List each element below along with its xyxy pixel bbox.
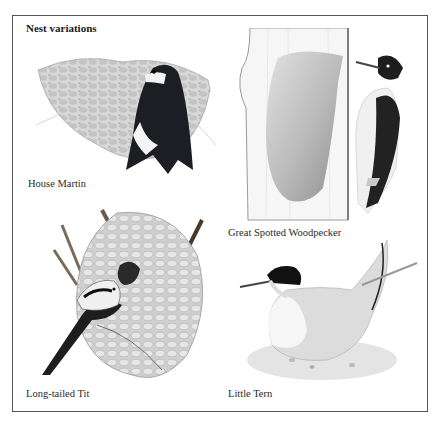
house-martin-illustration — [28, 50, 218, 175]
long-tailed-tit-illustration — [22, 205, 217, 390]
caption-long-tailed-tit: Long-tailed Tit — [26, 388, 89, 399]
great-spotted-woodpecker-illustration — [228, 28, 423, 223]
caption-little-tern: Little Tern — [228, 388, 272, 399]
page-title: Nest variations — [26, 22, 97, 34]
caption-house-martin: House Martin — [28, 178, 86, 189]
little-tern-illustration — [232, 235, 422, 385]
